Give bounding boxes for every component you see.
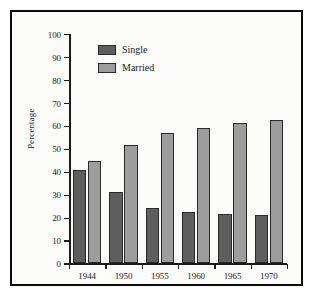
bar-single-1960 [182, 212, 196, 264]
bar-single-1965 [218, 214, 232, 263]
bar-married-1944 [88, 161, 102, 263]
legend-label-married: Married [122, 62, 154, 73]
bar-single-1950 [109, 192, 123, 263]
legend-label-single: Single [122, 44, 148, 55]
bar-married-1950 [124, 145, 138, 263]
x-axis-tick [178, 264, 179, 269]
legend-swatch-married [98, 63, 116, 73]
bar-married-1955 [161, 133, 175, 264]
x-axis-tick [69, 264, 70, 269]
bar-single-1970 [255, 215, 269, 263]
legend-swatch-single [98, 45, 116, 55]
x-axis-tick [287, 264, 288, 269]
x-axis-tick [142, 264, 143, 269]
x-axis-tick-label: 1944 [78, 271, 96, 281]
x-axis-tick-label: 1950 [115, 271, 133, 281]
bar-married-1965 [233, 123, 247, 263]
chart-legend: Single Married [98, 42, 154, 78]
bar-single-1955 [146, 208, 160, 263]
bar-married-1970 [270, 120, 284, 263]
legend-item-single: Single [98, 42, 154, 57]
bar-single-1944 [73, 170, 87, 263]
x-axis-tick-label: 1965 [224, 271, 242, 281]
x-axis-tick [105, 264, 106, 269]
x-axis-tick [214, 264, 215, 269]
x-axis-tick-label: 1970 [260, 271, 278, 281]
bars-layer [12, 12, 301, 284]
plot-area: Percentage 1009080706050403020100 194419… [12, 12, 301, 284]
chart-figure-frame: Percentage 1009080706050403020100 194419… [10, 10, 303, 286]
x-axis-tick [251, 264, 252, 269]
x-axis-tick-label: 1960 [187, 271, 205, 281]
x-axis-tick-label: 1955 [151, 271, 169, 281]
bar-married-1960 [197, 128, 211, 263]
legend-item-married: Married [98, 60, 154, 75]
